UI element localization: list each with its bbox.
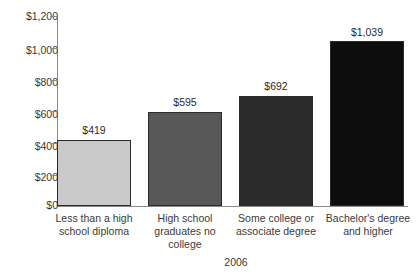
x-category-line: and higher <box>323 225 413 238</box>
bar-chart: $1,200 $1,000 $800 $600 $400 $200 $0 $41… <box>0 0 419 276</box>
y-tick-800: $800 <box>0 77 58 88</box>
x-category-label-3: Bachelor's degree and higher <box>323 212 413 238</box>
bar-value-label: $692 <box>239 80 313 92</box>
y-tick-mark <box>50 48 58 49</box>
y-tick-0: $0 <box>0 200 58 211</box>
x-category-label-1: High school graduates no college <box>143 212 227 251</box>
x-category-line: graduates no <box>143 225 227 238</box>
bar-some-college <box>239 96 313 206</box>
bar-high-school-graduates <box>148 112 222 206</box>
x-axis-line <box>57 206 408 207</box>
x-category-line: associate degree <box>234 225 318 238</box>
bar-value-label: $595 <box>148 96 222 108</box>
x-category-line: High school <box>143 212 227 225</box>
bar-less-than-high-school <box>57 140 131 206</box>
x-category-line: college <box>143 238 227 251</box>
x-category-line: Bachelor's degree <box>323 212 413 225</box>
bar-bachelors-degree <box>330 41 404 206</box>
y-tick-1000: $1,000 <box>0 45 58 56</box>
y-tick-mark <box>50 16 58 17</box>
y-tick-label: $800 <box>12 77 58 88</box>
bar-value-label: $1,039 <box>330 26 404 38</box>
x-category-line: Some college or <box>234 212 318 225</box>
y-tick-label: $200 <box>12 172 58 183</box>
y-tick-mark <box>50 111 58 112</box>
period-label: 2006 <box>196 256 276 268</box>
y-tick-mark <box>50 80 58 81</box>
bar-value-label: $419 <box>57 124 131 136</box>
y-tick-200: $200 <box>0 172 58 183</box>
y-tick-label: $0 <box>12 200 58 211</box>
x-category-label-0: Less than a high school diploma <box>52 212 136 238</box>
x-category-line: Less than a high <box>52 212 136 225</box>
x-category-line: school diploma <box>52 225 136 238</box>
y-tick-label: $1,000 <box>12 45 58 56</box>
x-category-label-2: Some college or associate degree <box>234 212 318 238</box>
